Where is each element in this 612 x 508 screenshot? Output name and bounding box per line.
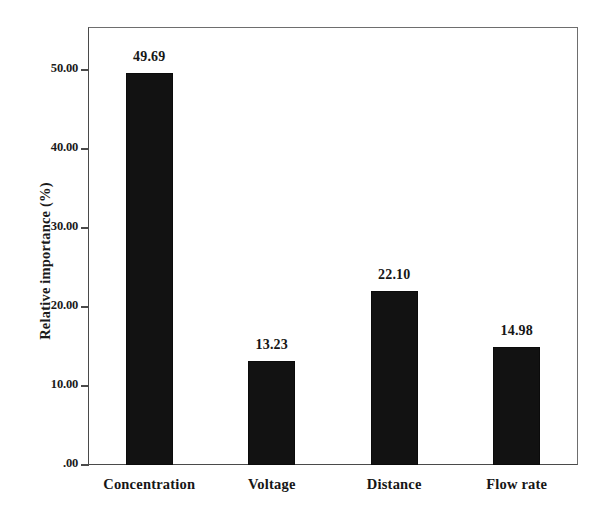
bar-value-label: 49.69	[99, 49, 199, 65]
x-axis-category-label: Voltage	[202, 476, 342, 493]
y-axis-title: Relative importance (%)	[32, 42, 58, 480]
bar-value-label: 14.98	[467, 323, 567, 339]
x-axis-category-label: Flow rate	[447, 476, 587, 493]
bar-value-label: 13.23	[222, 337, 322, 353]
bar	[493, 347, 540, 465]
x-axis-category-label: Concentration	[79, 476, 219, 493]
bar	[248, 361, 295, 465]
x-axis-category-label: Distance	[324, 476, 464, 493]
bar-value-label: 22.10	[344, 267, 444, 283]
bar	[126, 73, 173, 465]
bar	[371, 291, 418, 465]
bar-chart-figure: Relative importance (%) .0010.0020.0030.…	[0, 0, 612, 508]
